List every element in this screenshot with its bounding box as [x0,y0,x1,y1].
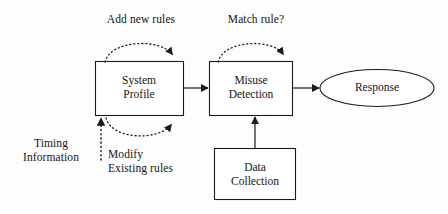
node-system-profile-label-line2: Profile [95,88,183,102]
annotation-modify-existing-rules-label: Modify Existing rules [108,148,208,175]
annotation-match-rule-label: Match rule? [206,13,306,26]
annotation-timing-information-line1: Timing [8,137,94,151]
annotation-add-new-rules-text: Add new rules [107,13,175,25]
diagram-canvas: System Profile Misuse Detection Response… [0,0,448,214]
annotation-modify-existing-rules-line1: Modify [108,148,208,162]
node-misuse-detection-label-line1: Misuse [209,74,293,88]
node-response-label-line1: Response [320,81,434,95]
annotation-modify-existing-rules-line2: Existing rules [108,162,208,176]
node-data-collection-label: Data Collection [214,161,296,188]
node-misuse-detection-label-line2: Detection [209,88,293,102]
annotation-modify-existing-rules-arc [106,118,171,136]
annotation-timing-information-label: Timing Information [8,137,94,164]
annotation-match-rule-arc [218,44,283,62]
node-misuse-detection-label: Misuse Detection [209,74,293,101]
annotation-add-new-rules-arc [105,44,172,62]
node-response-label: Response [320,81,434,95]
annotation-match-rule-text: Match rule? [228,13,284,25]
node-system-profile-label-line1: System [95,74,183,88]
annotation-timing-information-line2: Information [8,151,94,165]
node-system-profile-label: System Profile [95,74,183,101]
annotation-add-new-rules-label: Add new rules [85,13,197,26]
node-data-collection-label-line2: Collection [214,175,296,189]
node-data-collection-label-line1: Data [214,161,296,175]
